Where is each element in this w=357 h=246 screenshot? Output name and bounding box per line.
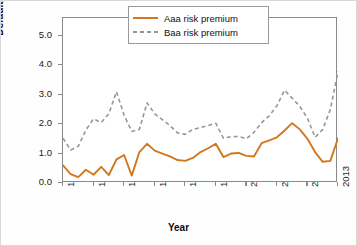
- legend-label-aaa: Aaa risk premium: [164, 13, 238, 24]
- y-axis-tick-label: 5.0: [26, 30, 52, 40]
- legend-swatch-solid-icon: [133, 13, 158, 23]
- y-axis-tick-label: 2.0: [26, 118, 52, 128]
- chart-page: Default Premium (%) 0.01.02.03.04.05.0 1…: [0, 0, 357, 246]
- chart-legend: Aaa risk premium Baa risk premium: [128, 6, 269, 44]
- y-axis-tick-label: 1.0: [26, 148, 52, 158]
- y-axis-tick-label: 3.0: [26, 89, 52, 99]
- series-line-baa: [63, 72, 338, 150]
- y-axis-tick-label: 4.0: [26, 59, 52, 69]
- x-axis-title: Year: [0, 222, 357, 233]
- y-axis-title: Default Premium (%): [0, 0, 5, 46]
- series-line-aaa: [63, 123, 338, 177]
- legend-label-baa: Baa risk premium: [164, 27, 238, 38]
- legend-item-aaa: Aaa risk premium: [133, 11, 263, 25]
- legend-swatch-dashed-icon: [133, 27, 158, 37]
- x-axis-tick-label: 2013: [341, 166, 351, 187]
- legend-item-baa: Baa risk premium: [133, 25, 263, 39]
- y-axis-tick-label: 0.0: [26, 177, 52, 187]
